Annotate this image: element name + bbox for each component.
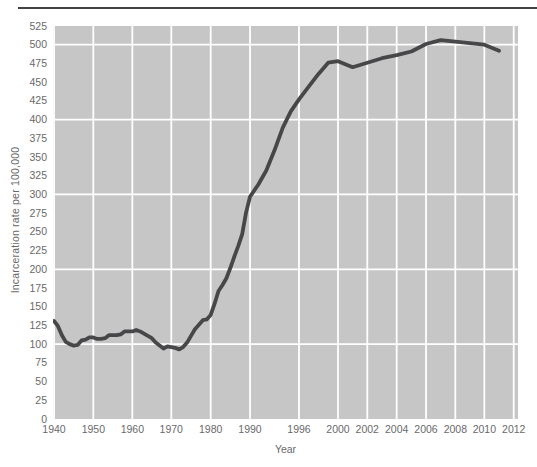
- plot-svg: [53, 26, 518, 419]
- y-tick-label: 25: [0, 395, 47, 406]
- plot-area: [53, 26, 518, 419]
- x-tick-label: 1990: [238, 423, 261, 435]
- x-tick-label: 1970: [160, 423, 183, 435]
- y-tick-label: 375: [0, 133, 47, 144]
- y-tick-label: 300: [0, 189, 47, 200]
- y-tick-label: 175: [0, 283, 47, 294]
- y-tick-label: 0: [0, 414, 47, 425]
- x-tick-label: 2008: [444, 423, 467, 435]
- y-tick-label: 325: [0, 170, 47, 181]
- y-tick-label: 500: [0, 39, 47, 50]
- y-tick-label: 100: [0, 339, 47, 350]
- x-tick-label: 2006: [414, 423, 437, 435]
- x-tick-label: 2010: [473, 423, 496, 435]
- x-tick-label: 1960: [121, 423, 144, 435]
- y-tick-label: 475: [0, 58, 47, 69]
- x-tick-label: 1950: [82, 423, 105, 435]
- x-axis-title: Year: [53, 443, 518, 455]
- x-tick-label: 2012: [502, 423, 525, 435]
- y-tick-label: 125: [0, 320, 47, 331]
- page-root: Incarceration rate per 100,000 525500475…: [0, 0, 537, 467]
- y-tick-label: 225: [0, 245, 47, 256]
- plot-background: [53, 26, 518, 419]
- top-divider-rule: [18, 7, 537, 9]
- y-tick-label: 75: [0, 357, 47, 368]
- y-tick-label: 425: [0, 95, 47, 106]
- y-tick-label: 150: [0, 301, 47, 312]
- y-tick-label: 200: [0, 264, 47, 275]
- y-tick-label: 50: [0, 376, 47, 387]
- x-tick-label: 1996: [287, 423, 310, 435]
- y-tick-label: 400: [0, 114, 47, 125]
- y-tick-label: 525: [0, 21, 47, 32]
- y-tick-label: 450: [0, 77, 47, 88]
- x-tick-label: 2004: [385, 423, 408, 435]
- y-tick-label: 250: [0, 226, 47, 237]
- y-tick-label: 275: [0, 208, 47, 219]
- x-tick-label: 2002: [356, 423, 379, 435]
- y-tick-label: 350: [0, 152, 47, 163]
- x-tick-label: 2000: [326, 423, 349, 435]
- x-tick-label: 1940: [42, 423, 65, 435]
- x-tick-label: 1980: [199, 423, 222, 435]
